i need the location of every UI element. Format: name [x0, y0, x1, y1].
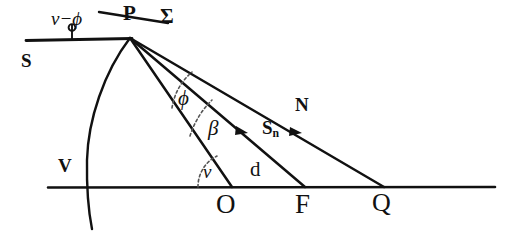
label-ray-sn-subscript: n — [273, 127, 280, 140]
label-point-v: V — [58, 156, 72, 175]
label-sigma: Σ — [160, 6, 174, 27]
arrowhead-sn-icon — [235, 126, 248, 135]
label-angle-phi: ϕ — [178, 88, 189, 109]
optics-diagram: ν−ϕ P Σ S ϕ β ν N Sn d V O F Q — [0, 0, 506, 237]
label-angle-beta: β — [208, 118, 218, 139]
figure-canvas — [0, 0, 506, 237]
label-ray-sn: Sn — [262, 118, 279, 139]
label-point-o: O — [216, 191, 236, 218]
label-ray-n: N — [295, 95, 309, 114]
surface-line-s — [26, 39, 132, 41]
baseline-axis — [48, 187, 495, 188]
label-point-p: P — [123, 3, 136, 24]
label-point-s: S — [21, 51, 32, 70]
label-point-f: F — [295, 191, 310, 218]
label-nu-minus-phi: ν−ϕ — [51, 9, 82, 28]
label-point-q: Q — [372, 190, 391, 216]
wavefront-arc — [87, 38, 130, 229]
label-angle-nu: ν — [203, 162, 211, 181]
label-segment-d: d — [250, 159, 261, 180]
label-ray-sn-base: S — [262, 117, 273, 138]
